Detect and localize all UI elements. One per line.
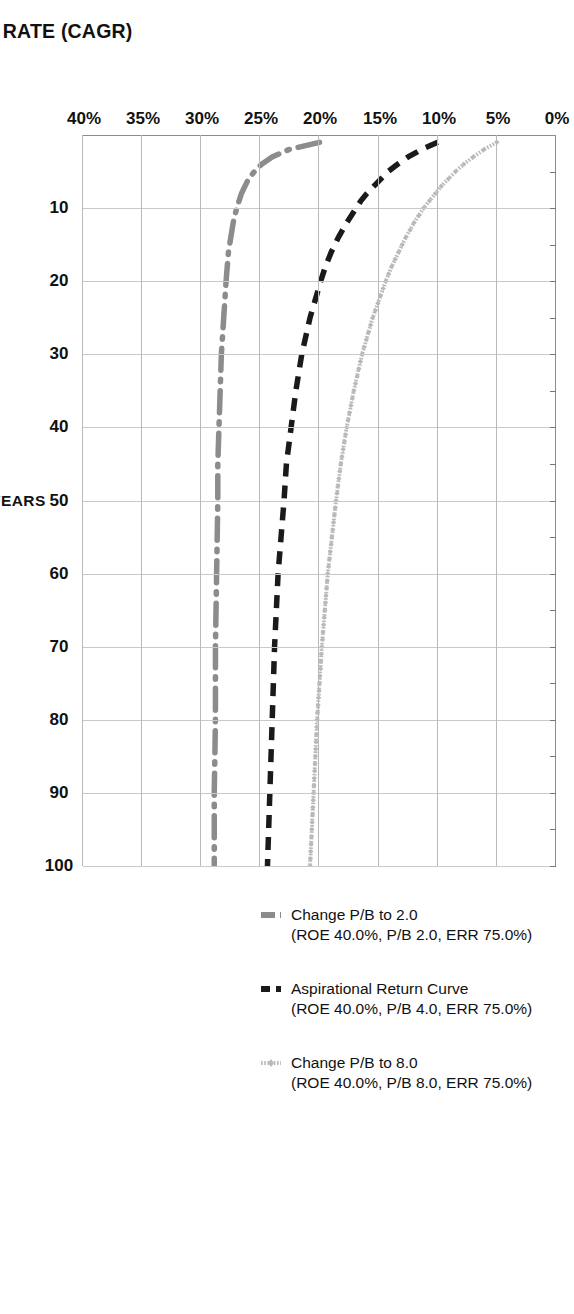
plot-area	[83, 135, 556, 866]
gridline-years-30	[83, 354, 556, 355]
legend-item: Aspirational Return Curve(ROE 40.0%, P/B…	[260, 979, 550, 1020]
gridline-cagr-30	[200, 135, 201, 866]
series-marker	[309, 827, 314, 832]
legend-item: Change P/B to 8.0(ROE 40.0%, P/B 8.0, ER…	[260, 1053, 550, 1094]
legend-label-primary: Change P/B to 2.0	[291, 906, 418, 923]
series-marker	[381, 286, 386, 291]
series-marker	[310, 820, 315, 825]
gridline-years-60	[83, 574, 556, 575]
years-tick-label-80: 80	[29, 710, 89, 730]
gridline-cagr-25	[259, 135, 260, 866]
years-tick-label-40: 40	[29, 417, 89, 437]
years-axis-line	[83, 135, 556, 136]
series-marker	[312, 768, 317, 773]
tickmark-year-15	[550, 245, 556, 246]
gridline-years-50	[83, 501, 556, 502]
tickmark-year-30	[550, 354, 556, 355]
tickmark-year-85	[550, 756, 556, 757]
chart-figure: COMPOUND ANNUAL GROWTH RATE (CAGR) 0%5%1…	[0, 0, 574, 1314]
years-axis-title: YEARS	[0, 492, 78, 510]
legend-label-detail: (ROE 40.0%, P/B 2.0, ERR 75.0%)	[291, 925, 532, 945]
tickmark-year-55	[550, 537, 556, 538]
years-tick-label-70: 70	[29, 637, 89, 657]
years-tick-label-60: 60	[29, 564, 89, 584]
cagr-tick-label-5: 5%	[468, 109, 528, 129]
cagr-tick-label-25: 25%	[231, 109, 291, 129]
tickmark-year-80	[550, 720, 556, 721]
gridline-cagr-35	[141, 135, 142, 866]
series-marker	[403, 235, 408, 240]
series-marker	[353, 381, 358, 386]
tickmark-year-35	[550, 391, 556, 392]
tickmark-year-75	[550, 683, 556, 684]
tickmark-year-20	[550, 281, 556, 282]
years-tick-label-10: 10	[29, 198, 89, 218]
legend-label-primary: Change P/B to 8.0	[291, 1054, 418, 1071]
gridline-years-70	[83, 647, 556, 648]
series-marker	[348, 403, 353, 408]
years-tick-label-30: 30	[29, 344, 89, 364]
gridline-years-80	[83, 720, 556, 721]
tickmark-year-5	[550, 172, 556, 173]
tickmark-year-90	[550, 793, 556, 794]
series-marker	[308, 849, 313, 854]
series-line-aspirational-return-curve	[267, 142, 437, 866]
tickmark-year-40	[550, 427, 556, 428]
legend-label-primary: Aspirational Return Curve	[291, 980, 468, 997]
series-marker	[331, 520, 336, 525]
tickmark-year-10	[550, 208, 556, 209]
gridline-cagr-5	[496, 135, 497, 866]
series-line-change-p-b-to-8-0	[310, 142, 497, 866]
series-marker	[321, 622, 326, 627]
cagr-tick-label-30: 30%	[172, 109, 232, 129]
legend-label-detail: (ROE 40.0%, P/B 8.0, ERR 75.0%)	[291, 1073, 532, 1093]
gridline-years-90	[83, 793, 556, 794]
rotated-chart-canvas: COMPOUND ANNUAL GROWTH RATE (CAGR) 0%5%1…	[0, 0, 574, 1314]
cagr-tick-label-40: 40%	[54, 109, 114, 129]
legend-item: Change P/B to 2.0(ROE 40.0%, P/B 2.0, ER…	[260, 905, 550, 946]
tickmark-year-95	[550, 829, 556, 830]
chart-title: COMPOUND ANNUAL GROWTH RATE (CAGR)	[0, 20, 556, 43]
gridline-cagr-20	[319, 135, 320, 866]
series-marker	[311, 798, 316, 803]
cagr-tick-label-15: 15%	[350, 109, 410, 129]
gridline-cagr-15	[378, 135, 379, 866]
gridline-years-10	[83, 208, 556, 209]
years-tick-label-100: 100	[29, 856, 89, 876]
series-line-change-p-b-to-2-0	[214, 142, 319, 866]
gridline-years-20	[83, 281, 556, 282]
tickmark-year-65	[550, 610, 556, 611]
series-marker	[416, 213, 421, 218]
tickmark-year-100	[550, 866, 556, 867]
tickmark-year-60	[550, 574, 556, 575]
series-marker	[323, 593, 328, 598]
cagr-tick-label-20: 20%	[291, 109, 351, 129]
legend-label-detail: (ROE 40.0%, P/B 4.0, ERR 75.0%)	[291, 999, 532, 1019]
years-tick-label-90: 90	[29, 783, 89, 803]
cagr-tick-label-0: 0%	[527, 109, 574, 129]
series-marker	[358, 359, 363, 364]
years-tick-label-20: 20	[29, 271, 89, 291]
cagr-tick-label-10: 10%	[409, 109, 469, 129]
cagr-tick-label-35: 35%	[113, 109, 173, 129]
legend-swatch-icon	[260, 1055, 282, 1071]
gridline-cagr-10	[437, 135, 438, 866]
legend-swatch-icon	[260, 907, 282, 923]
gridline-years-40	[83, 427, 556, 428]
tickmark-year-50	[550, 501, 556, 502]
series-marker	[312, 776, 317, 781]
tickmark-year-70	[550, 647, 556, 648]
gridline-years-100	[83, 866, 556, 867]
chart-legend: Change P/B to 2.0(ROE 40.0%, P/B 2.0, ER…	[250, 905, 550, 1295]
legend-swatch-icon	[260, 981, 282, 997]
tickmark-year-45	[550, 464, 556, 465]
tickmark-year-25	[550, 318, 556, 319]
